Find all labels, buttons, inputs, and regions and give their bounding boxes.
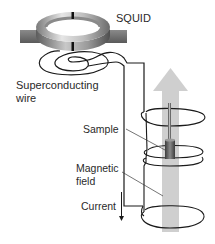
superconducting-wire-label-line1: Superconducting [16, 79, 99, 91]
superconducting-wire-label-line2: wire [16, 92, 36, 104]
magnetic-field-label-line2: field [76, 175, 95, 187]
current-label: Current [81, 200, 116, 212]
current-arrow [119, 192, 124, 221]
sample-label: Sample [83, 123, 119, 135]
squid-label: SQUID [116, 12, 151, 24]
squid-ring [20, 12, 127, 51]
magnetic-field-label-line1: Magnetic [76, 162, 119, 174]
